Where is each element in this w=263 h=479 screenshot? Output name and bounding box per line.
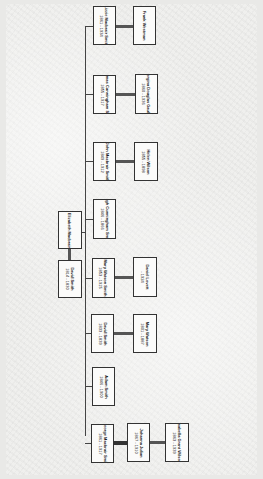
person-dates: 1861 - 1917	[98, 424, 103, 463]
person-dates: 1801 - 1887	[140, 321, 145, 346]
person-dates: 1867 - 1910	[134, 428, 139, 457]
person-name: Helen Wilson	[146, 149, 151, 174]
spouse-box[interactable]: Frank Westman	[133, 6, 156, 45]
person-dates: 1855 - 1898	[141, 149, 146, 174]
person-name: Georgina Douglas Gaulton	[147, 74, 152, 114]
spouse-box[interactable]: Mary Watson 1801 - 1887	[133, 314, 157, 353]
person-name: David Smith	[70, 267, 75, 290]
marriage-line	[116, 93, 135, 96]
person-name: Daniel Lovett	[145, 264, 150, 289]
person-name: Elizabeth Macbrair	[68, 212, 73, 247]
spouse-box[interactable]: Daniel Lovett - 1924	[133, 257, 157, 297]
spouse-box[interactable]: Helen Wilson 1855 - 1898	[134, 142, 158, 181]
child-box[interactable]: Mary Watson Smith 1853 - 1915	[92, 258, 115, 298]
branch-line	[85, 386, 92, 387]
spouse-box[interactable]: Johanna Julian 1867 - 1910	[127, 423, 150, 462]
root-elizabeth-box[interactable]: Elizabeth Macbrair	[58, 211, 82, 249]
marriage-line	[114, 332, 133, 335]
marriage-line	[116, 25, 133, 28]
branch-line	[85, 278, 92, 279]
marriage-line	[150, 441, 165, 444]
person-name: Frank Westman	[142, 11, 147, 41]
person-name: Thomas Cunningham Smith	[105, 75, 110, 114]
child-box[interactable]: Hugh Cunningham Smith 1846 - 1866	[93, 199, 116, 239]
person-name: George Macbrair Smith	[103, 424, 108, 463]
person-dates: 1814 - 1830	[65, 267, 70, 290]
person-name: John Macbrair Smith	[105, 142, 110, 181]
person-dates: 1863 - 1939	[172, 423, 177, 462]
child-box[interactable]: John Macbrair Smith 1849 - 1912	[93, 142, 116, 181]
branch-line	[85, 94, 93, 95]
descendant-box[interactable]: Isabella Grant Wilson 1863 - 1939	[165, 423, 189, 462]
person-dates: 1849 - 1912	[100, 142, 105, 181]
branch-line	[85, 219, 93, 220]
person-name: Mary Watson Smith	[104, 260, 109, 297]
branch-line	[85, 26, 93, 27]
family-spine-line	[85, 26, 86, 436]
person-name: Hugh Cunningham Smith	[105, 199, 110, 239]
branch-line	[85, 161, 93, 162]
child-box[interactable]: Lizzie Macbrair Smith 1861 - 1934	[93, 6, 116, 45]
child-box[interactable]: David Smith 1833 - 1839	[91, 314, 114, 353]
child-box[interactable]: Thomas Cunningham Smith 1855 - 1917	[93, 75, 116, 114]
person-dates: 1846 - 1900	[99, 375, 104, 398]
child-box[interactable]: George Macbrair Smith 1861 - 1917	[91, 424, 114, 463]
person-name: Mary Watson	[145, 321, 150, 346]
marriage-line	[114, 441, 127, 445]
child-box[interactable]: Adam Smith 1846 - 1900	[92, 367, 115, 406]
paper-background	[6, 4, 257, 475]
marriage-line	[116, 160, 134, 163]
person-dates: 1833 - 1839	[98, 322, 103, 345]
person-name: Adam Smith	[104, 375, 109, 398]
person-name: Isabella Grant Wilson	[177, 423, 182, 462]
root-marriage-link	[68, 249, 71, 260]
root-to-spine-line	[82, 232, 86, 233]
marriage-line	[115, 276, 133, 279]
person-name: Johanna Julian	[139, 428, 144, 457]
root-david-box[interactable]: David Smith 1814 - 1830	[58, 260, 82, 298]
person-name: Lizzie Macbrair Smith	[105, 6, 110, 45]
person-name: David Smith	[103, 322, 108, 345]
spouse-box[interactable]: Georgina Douglas Gaulton 1860 - 1936	[135, 74, 158, 114]
person-dates: 1846 - 1866	[100, 199, 105, 239]
